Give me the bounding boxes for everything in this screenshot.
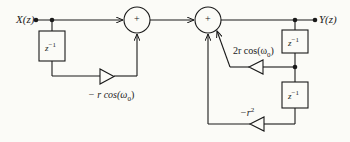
input-node	[34, 18, 39, 23]
adder-1-plus: +	[134, 14, 140, 24]
gain-feedback-1-label: 2r cos(ω0)	[233, 46, 274, 59]
delay-feedforward-label: z−1	[45, 42, 56, 53]
adder-2-plus: +	[205, 14, 211, 24]
delay-feedback-1-label: z−1	[288, 37, 299, 48]
block-diagram: X(z) Y(z) + + z−1 z−1 z−1 − r cos(ω0) 2r…	[0, 0, 350, 142]
branch-node-input	[50, 18, 55, 23]
output-node	[313, 18, 318, 23]
delay-feedback-2-label: z−1	[288, 90, 299, 101]
branch-node-output	[293, 18, 298, 23]
output-label: Y(z)	[319, 14, 337, 25]
gain-feedback-2-label: −r2	[240, 107, 254, 118]
diagram-lines	[0, 0, 350, 142]
gain-feedforward-label: − r cos(ω0)	[88, 90, 134, 103]
input-label: X(z)	[16, 14, 34, 25]
branch-node-delay	[293, 65, 298, 70]
